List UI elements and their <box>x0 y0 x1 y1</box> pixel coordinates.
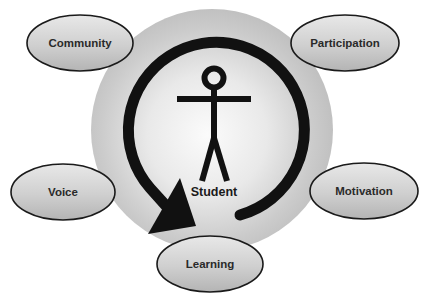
node-participation: Participation <box>291 15 399 71</box>
node-label-voice: Voice <box>48 186 78 198</box>
node-label-learning: Learning <box>186 258 235 270</box>
student-engagement-diagram: Student Community Participation Voice Mo… <box>0 0 425 300</box>
node-label-community: Community <box>48 37 112 49</box>
node-community: Community <box>27 15 133 71</box>
node-learning: Learning <box>157 236 263 292</box>
center-label: Student <box>191 185 238 199</box>
node-voice: Voice <box>11 164 115 220</box>
node-label-motivation: Motivation <box>335 185 393 197</box>
node-motivation: Motivation <box>310 163 418 219</box>
node-label-participation: Participation <box>310 37 380 49</box>
